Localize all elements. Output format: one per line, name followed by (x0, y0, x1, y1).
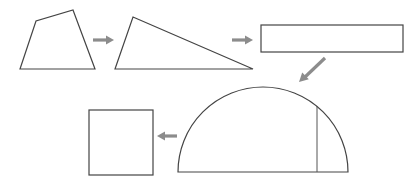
semicircle-construction (178, 87, 348, 172)
arrow-down-left-icon (299, 58, 325, 82)
arrow-right-icon (232, 36, 253, 45)
quadrilateral-shape (20, 10, 95, 69)
arrow-right-icon (93, 36, 114, 45)
triangle-shape (115, 17, 253, 69)
semicircle-shape (178, 87, 348, 172)
diagram-canvas (0, 0, 419, 189)
rectangle-shape (261, 25, 403, 52)
arrow-left-icon (157, 132, 177, 141)
square-shape (89, 110, 153, 175)
